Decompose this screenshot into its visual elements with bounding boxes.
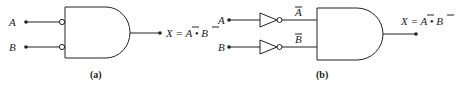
input-b-label-b: B bbox=[218, 41, 225, 53]
and-gate-b bbox=[317, 8, 383, 60]
input-a-label-b: A bbox=[217, 14, 225, 26]
output-terminal-b bbox=[414, 32, 418, 36]
output-terminal-a bbox=[158, 31, 162, 35]
output-expression-a: X = A • B bbox=[165, 27, 208, 39]
panel-b: A A B B X = A • B (b) bbox=[217, 6, 454, 81]
logic-diagram: A B X = A • B (a) A A B B bbox=[0, 0, 457, 85]
output-expression-b: X = A • B bbox=[400, 15, 443, 27]
input-b-label: B bbox=[9, 41, 16, 53]
inverter-b bbox=[260, 40, 277, 54]
inverter-a bbox=[260, 13, 277, 27]
inverted-b-label: B bbox=[295, 33, 302, 45]
input-a-inversion-bubble bbox=[59, 19, 64, 24]
caption-a: (a) bbox=[90, 69, 102, 81]
input-b-inversion-bubble bbox=[59, 44, 64, 49]
input-a-label: A bbox=[8, 16, 16, 28]
caption-b: (b) bbox=[316, 69, 328, 81]
inverted-a-label: A bbox=[294, 6, 302, 18]
and-gate-a bbox=[65, 7, 130, 58]
panel-a: A B X = A • B (a) bbox=[8, 7, 219, 81]
